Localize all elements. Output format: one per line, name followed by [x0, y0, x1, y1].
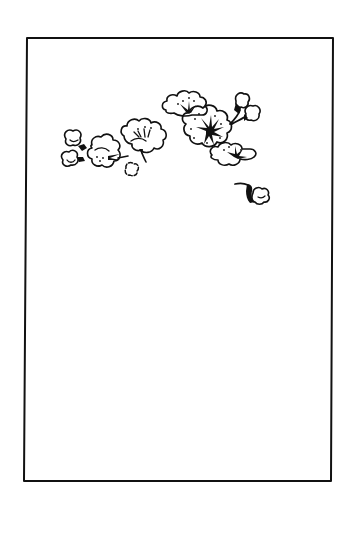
- bud-cluster-left: [62, 130, 87, 166]
- small-bud: [125, 163, 138, 176]
- blossom-upper: [162, 91, 207, 116]
- blossom-lower-right: [210, 143, 255, 166]
- buds-top-right: [230, 93, 260, 124]
- plum-blossom-illustration: [0, 0, 355, 544]
- falling-bud: [235, 183, 269, 204]
- print-page: [0, 0, 355, 544]
- blossom-left: [88, 134, 129, 167]
